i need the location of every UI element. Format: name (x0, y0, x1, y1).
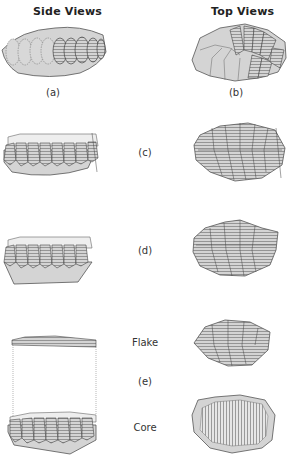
top-view-core (192, 395, 275, 453)
side-view-flake (12, 336, 96, 418)
illustrations (0, 0, 290, 465)
top-view-c (194, 123, 285, 181)
side-view-c (4, 133, 98, 175)
side-view-d (4, 237, 92, 284)
side-view-core (8, 412, 96, 454)
top-view-flake (194, 320, 270, 366)
top-view-d (193, 220, 278, 276)
side-view-a (2, 27, 106, 76)
top-view-b (192, 24, 286, 81)
